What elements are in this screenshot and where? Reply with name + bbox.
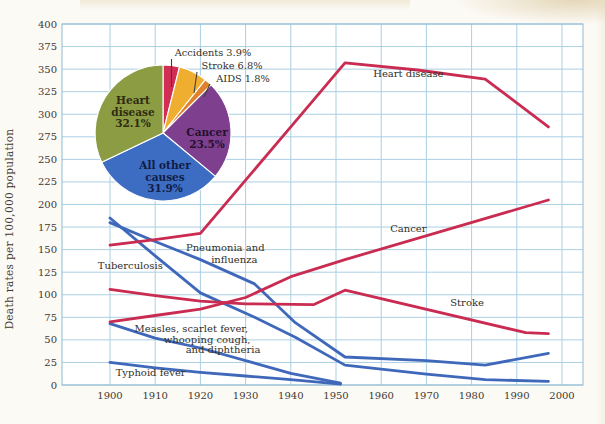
x-tick-label-1920: 1920 <box>188 390 213 401</box>
y-tick-label-0: 0 <box>51 380 57 391</box>
y-tick-label-125: 125 <box>38 267 57 278</box>
textbook-figure-page: 0255075100125150175200225250275300325350… <box>0 0 605 424</box>
series-label-whooping-cough: whooping cough, <box>164 334 251 345</box>
pie-callout-accidents-3-9: Accidents 3.9% <box>174 47 252 58</box>
x-tick-label-1950: 1950 <box>323 390 348 401</box>
pie-inner-label-all-other-causes-31-9-1: causes <box>145 171 184 183</box>
series-label-heart-disease: Heart disease <box>373 68 443 79</box>
series-label-measles-scarlet-fever: Measles, scarlet fever, <box>135 323 249 334</box>
x-tick-label-1910: 1910 <box>142 390 167 401</box>
y-tick-label-225: 225 <box>38 176 57 187</box>
y-tick-label-50: 50 <box>44 334 57 345</box>
y-tick-label-175: 175 <box>38 222 57 233</box>
y-tick-label-275: 275 <box>38 131 57 142</box>
death-rates-line-chart-with-pie-inset: 0255075100125150175200225250275300325350… <box>0 0 605 424</box>
y-axis-title: Death rates per 100,000 population <box>3 129 15 330</box>
pie-inner-label-heart-disease-32-1-0: Heart <box>116 94 150 106</box>
series-label-typhoid-fever: Typhoid fever <box>116 367 186 378</box>
x-tick-label-1980: 1980 <box>459 390 484 401</box>
series-label-cancer: Cancer <box>390 223 427 234</box>
pie-callout-aids-1-8: AIDS 1.8% <box>215 73 270 84</box>
y-tick-label-325: 325 <box>38 86 57 97</box>
series-label-pneumonia-and: Pneumonia and <box>186 242 265 253</box>
y-tick-label-200: 200 <box>38 199 57 210</box>
pie-inner-label-cancer-23-5-0: Cancer <box>186 126 228 138</box>
pie-inner-label-heart-disease-32-1-2: 32.1% <box>115 117 151 129</box>
x-tick-label-1900: 1900 <box>97 390 122 401</box>
pie-inner-label-heart-disease-32-1-1: disease <box>111 106 155 118</box>
pie-callout-stroke-6-8: Stroke 6.8% <box>202 60 263 71</box>
y-tick-label-150: 150 <box>38 244 57 255</box>
x-tick-label-1930: 1930 <box>233 390 258 401</box>
series-label-and-diphtheria: and diphtheria <box>186 344 261 355</box>
y-tick-label-375: 375 <box>38 41 57 52</box>
pie-inner-label-all-other-causes-31-9-2: 31.9% <box>147 182 183 194</box>
y-tick-label-350: 350 <box>38 64 57 75</box>
y-tick-label-400: 400 <box>38 19 57 30</box>
y-tick-label-250: 250 <box>38 154 57 165</box>
x-tick-label-1970: 1970 <box>414 390 439 401</box>
y-tick-label-75: 75 <box>44 312 57 323</box>
x-tick-label-2000: 2000 <box>549 390 574 401</box>
x-tick-label-1940: 1940 <box>278 390 303 401</box>
series-label-stroke: Stroke <box>450 297 484 308</box>
y-tick-label-300: 300 <box>38 109 57 120</box>
pie-inner-label-all-other-causes-31-9-0: All other <box>138 159 191 171</box>
y-tick-label-25: 25 <box>44 357 57 368</box>
x-tick-label-1990: 1990 <box>504 390 529 401</box>
series-label-influenza: influenza <box>211 254 257 265</box>
series-label-tuberculosis: Tuberculosis <box>98 260 163 271</box>
y-tick-label-100: 100 <box>38 289 57 300</box>
x-tick-label-1960: 1960 <box>368 390 393 401</box>
pie-inner-label-cancer-23-5-1: 23.5% <box>189 138 225 150</box>
